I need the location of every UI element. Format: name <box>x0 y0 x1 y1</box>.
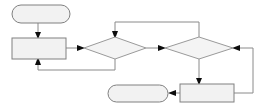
connector-decision-second-top-loopback-to-decision-first <box>112 22 199 39</box>
connector-process-left-to-decision-first <box>66 45 85 51</box>
connector-line <box>115 22 199 37</box>
start-terminal-shape[interactable] <box>12 5 70 23</box>
decision-first[interactable] <box>84 37 146 59</box>
process-bottom-right[interactable] <box>180 84 234 102</box>
connector-decision-second-to-process-bottom-right <box>196 59 202 85</box>
arrowhead-left-icon <box>168 90 176 96</box>
decision-second[interactable] <box>165 37 233 59</box>
flowchart-diagram <box>0 0 269 109</box>
connector-process-bottom-right-loopback-to-decision-second <box>232 45 253 93</box>
process-left-shape[interactable] <box>12 38 66 59</box>
process-left[interactable] <box>12 38 66 59</box>
process-bottom-right-shape[interactable] <box>180 84 234 102</box>
start-terminal[interactable] <box>12 5 70 23</box>
end-terminal-shape[interactable] <box>108 85 168 102</box>
connector-process-bottom-right-to-end-terminal <box>168 90 180 96</box>
node-layer <box>12 5 234 102</box>
connector-line <box>234 48 253 93</box>
flowchart-canvas <box>0 0 269 109</box>
connector-decision-first-to-decision-second <box>146 45 166 51</box>
connector-line <box>38 59 115 70</box>
decision-second-shape[interactable] <box>165 37 233 59</box>
decision-first-shape[interactable] <box>84 37 146 59</box>
connector-start-to-process-left <box>35 23 41 39</box>
end-terminal[interactable] <box>108 85 168 102</box>
